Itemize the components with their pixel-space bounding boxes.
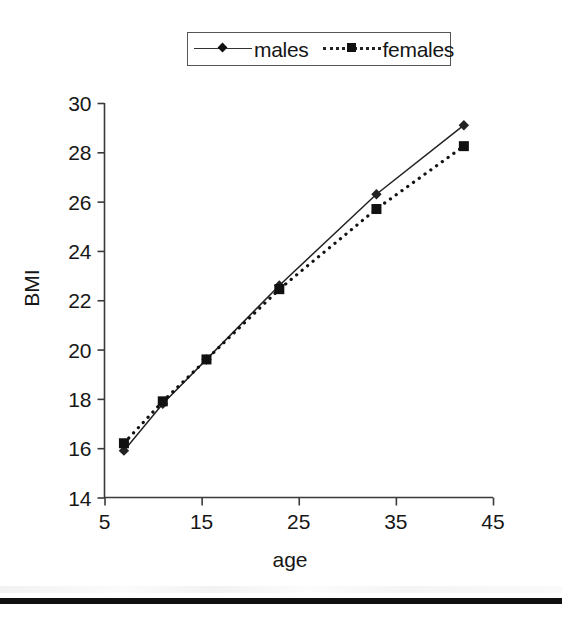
x-tick-label: 45 <box>473 511 513 532</box>
x-tick-label: 5 <box>85 511 125 532</box>
data-point-females <box>201 354 211 364</box>
series-line-males <box>124 125 464 451</box>
bmi-age-chart-figure: males females 141618202224262830 5152535 <box>0 0 562 617</box>
y-axis-title: BMI <box>20 248 44 328</box>
data-point-females <box>459 141 469 151</box>
y-tick-label: 22 <box>52 290 92 311</box>
axis-lines <box>104 103 493 498</box>
y-tick-label: 14 <box>52 488 92 509</box>
data-series-group <box>119 120 469 456</box>
x-tick-label: 25 <box>279 511 319 532</box>
x-axis-title: age <box>250 548 330 572</box>
y-tick-label: 16 <box>52 438 92 459</box>
data-point-females <box>158 396 168 406</box>
y-tick-label: 28 <box>52 142 92 163</box>
data-point-females <box>119 438 129 448</box>
y-tick-label: 26 <box>52 192 92 213</box>
page-bottom-rule <box>0 598 562 604</box>
series-line-females <box>124 146 464 443</box>
x-tick-label: 35 <box>376 511 416 532</box>
y-tick-label: 24 <box>52 241 92 262</box>
data-point-females <box>274 284 284 294</box>
x-axis-ticks <box>105 498 494 506</box>
y-tick-label: 18 <box>52 389 92 410</box>
y-axis-ticks <box>98 104 105 499</box>
y-tick-label: 20 <box>52 340 92 361</box>
plot-area: 141618202224262830 515253545 BMI age <box>0 0 562 617</box>
data-point-females <box>371 204 381 214</box>
y-tick-label: 30 <box>52 93 92 114</box>
page-scan-smudge <box>0 586 562 593</box>
x-tick-label: 15 <box>182 511 222 532</box>
